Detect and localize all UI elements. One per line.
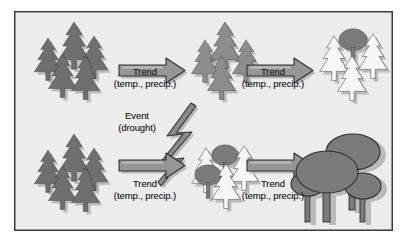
event-label-line2: (drought): [96, 122, 178, 134]
event-label-line1: Event: [96, 110, 178, 122]
stand-bottom-left: [34, 134, 110, 214]
arrow-label-bottom-right: Trend (temp., precip.): [216, 178, 330, 201]
trend-label-line1: Trend: [88, 66, 202, 78]
trend-label-line1: Trend: [88, 178, 202, 190]
figure-root: Trend (temp., precip.) Trend (temp., pre…: [0, 0, 407, 244]
diagram-canvas: [0, 0, 407, 244]
stand-top-left: [34, 22, 110, 102]
trend-label-line2: (temp., precip.): [88, 78, 202, 90]
stand-top-middle: [191, 22, 262, 102]
arrow-label-top-left: Trend (temp., precip.): [88, 66, 202, 89]
trend-label-line2: (temp., precip.): [216, 78, 330, 90]
arrow-bottom-left: [119, 153, 188, 181]
arrow-label-top-right: Trend (temp., precip.): [216, 66, 330, 89]
trend-label-line1: Trend: [216, 66, 330, 78]
stand-top-right: [320, 29, 391, 104]
event-label: Event (drought): [96, 110, 178, 133]
trend-label-line2: (temp., precip.): [88, 190, 202, 202]
arrow-label-bottom-left: Trend (temp., precip.): [88, 178, 202, 201]
trend-label-line1: Trend: [216, 178, 330, 190]
trend-label-line2: (temp., precip.): [216, 190, 330, 202]
